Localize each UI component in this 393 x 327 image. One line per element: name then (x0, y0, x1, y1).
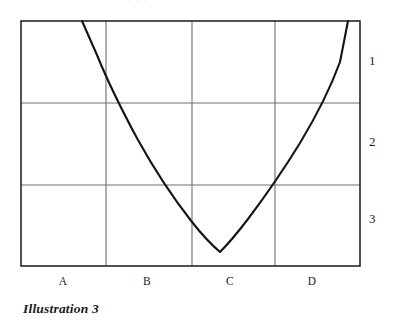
plot-frame (21, 21, 360, 266)
illustration-figure: · · · A B C D 1 2 3 Illustration 3 (0, 0, 393, 327)
x-tick-label-d: D (302, 275, 322, 287)
x-tick-label-a: A (53, 275, 73, 287)
figure-caption: Illustration 3 (23, 301, 99, 317)
x-tick-label-b: B (137, 275, 157, 287)
x-tick-label-c: C (220, 275, 240, 287)
data-curve (82, 21, 348, 252)
y-tick-label-3: 3 (369, 213, 385, 225)
y-tick-label-2: 2 (369, 136, 385, 148)
y-tick-label-1: 1 (369, 55, 385, 67)
